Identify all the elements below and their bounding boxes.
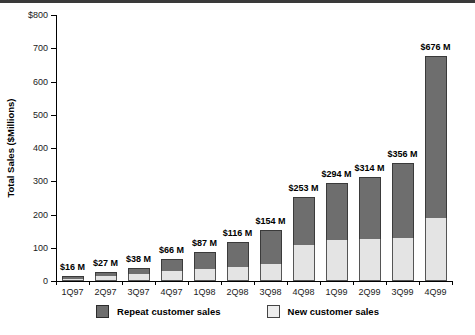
legend-label-new: New customer sales [288,306,379,317]
x-tick-4 [188,281,189,285]
bar-segment-new-3Q99 [392,238,414,281]
bar-segment-repeat-1Q99 [326,183,348,240]
bar-segment-new-2Q97 [95,276,117,281]
x-tick-7 [287,281,288,285]
x-category-label-1Q97: 1Q97 [61,287,83,297]
x-category-label-1Q99: 1Q99 [325,287,347,297]
repeat-swatch-icon [96,305,109,318]
bar-2Q98[interactable]: $116 M [227,242,249,281]
bar-segment-new-4Q98 [293,245,315,281]
bar-segment-new-2Q98 [227,267,249,281]
bar-segment-repeat-4Q97 [161,259,183,271]
bar-value-label-3Q98: $154 M [255,216,285,226]
bar-value-label-1Q99: $294 M [321,169,351,179]
legend-item-new-customer-sales: New customer sales [267,305,379,318]
y-tick-label-800: $800 [28,10,48,20]
bar-2Q97[interactable]: $27 M [95,272,117,281]
x-category-label-4Q98: 4Q98 [292,287,314,297]
bar-4Q99[interactable]: $676 M [425,56,447,281]
x-category-label-3Q97: 3Q97 [127,287,149,297]
bar-segment-repeat-4Q98 [293,197,315,246]
x-category-label-2Q99: 2Q99 [358,287,380,297]
bar-segment-repeat-3Q98 [260,230,282,264]
y-tick-400 [51,148,56,149]
stacked-bar-chart: Total Sales ($Millions) 0100200300400500… [0,0,475,335]
y-tick-label-400: 400 [33,143,48,153]
y-tick-label-200: 200 [33,210,48,220]
x-tick-2 [122,281,123,285]
bar-value-label-3Q99: $356 M [387,149,417,159]
bar-value-label-1Q97: $16 M [60,262,85,272]
y-tick-700 [51,48,56,49]
plot-area: Total Sales ($Millions) 0100200300400500… [56,15,452,281]
x-tick-1 [89,281,90,285]
x-tick-11 [419,281,420,285]
bar-segment-new-4Q99 [425,218,447,281]
bar-segment-repeat-1Q98 [194,252,216,269]
bar-segment-repeat-3Q99 [392,163,414,238]
bar-segment-repeat-4Q99 [425,56,447,218]
y-tick-800 [51,15,56,16]
bar-1Q99[interactable]: $294 M [326,183,348,281]
y-tick-500 [51,115,56,116]
bar-value-label-2Q97: $27 M [93,258,118,268]
bar-value-label-2Q98: $116 M [223,228,253,238]
x-category-label-1Q98: 1Q98 [193,287,215,297]
x-tick-end [452,281,453,285]
x-category-label-4Q97: 4Q97 [160,287,182,297]
y-tick-label-0: 0 [43,276,48,286]
legend-item-repeat-customer-sales: Repeat customer sales [96,305,221,318]
bar-value-label-2Q99: $314 M [354,163,384,173]
y-axis-line [56,15,57,281]
x-tick-10 [386,281,387,285]
y-tick-label-700: 700 [33,43,48,53]
bar-value-label-3Q97: $38 M [126,254,151,264]
bar-3Q99[interactable]: $356 M [392,163,414,281]
top-edge-band [0,0,475,3]
x-tick-6 [254,281,255,285]
bar-1Q98[interactable]: $87 M [194,252,216,281]
bar-segment-repeat-2Q99 [359,177,381,240]
bar-segment-new-4Q97 [161,271,183,281]
x-category-label-2Q98: 2Q98 [226,287,248,297]
bar-segment-new-1Q98 [194,269,216,281]
y-tick-label-600: 600 [33,77,48,87]
bar-segment-new-1Q97 [62,279,84,281]
bar-4Q97[interactable]: $66 M [161,259,183,281]
bar-segment-new-3Q97 [128,274,150,281]
bar-value-label-1Q98: $87 M [192,238,217,248]
y-tick-label-500: 500 [33,110,48,120]
bar-2Q99[interactable]: $314 M [359,177,381,281]
legend-label-repeat: Repeat customer sales [117,306,221,317]
bar-segment-new-1Q99 [326,240,348,281]
bar-segment-new-3Q98 [260,264,282,281]
y-axis-title: Total Sales ($Millions) [5,98,16,197]
y-tick-label-100: 100 [33,243,48,253]
bar-value-label-4Q99: $676 M [420,42,450,52]
x-category-label-3Q98: 3Q98 [259,287,281,297]
x-tick-5 [221,281,222,285]
bar-value-label-4Q98: $253 M [288,183,318,193]
bar-segment-repeat-2Q98 [227,242,249,266]
y-tick-300 [51,181,56,182]
bar-3Q98[interactable]: $154 M [260,230,282,281]
x-category-label-2Q97: 2Q97 [94,287,116,297]
x-tick-0 [56,281,57,285]
bar-segment-new-2Q99 [359,239,381,281]
bar-4Q98[interactable]: $253 M [293,197,315,281]
x-category-label-4Q99: 4Q99 [424,287,446,297]
y-tick-600 [51,82,56,83]
chart-legend: Repeat customer sales New customer sales [0,305,475,318]
y-tick-label-300: 300 [33,176,48,186]
y-tick-200 [51,215,56,216]
bar-value-label-4Q97: $66 M [159,245,184,255]
new-swatch-icon [267,305,280,318]
x-tick-9 [353,281,354,285]
y-tick-100 [51,248,56,249]
x-tick-8 [320,281,321,285]
x-category-label-3Q99: 3Q99 [391,287,413,297]
bar-3Q97[interactable]: $38 M [128,268,150,281]
bar-1Q97[interactable]: $16 M [62,276,84,281]
x-tick-3 [155,281,156,285]
